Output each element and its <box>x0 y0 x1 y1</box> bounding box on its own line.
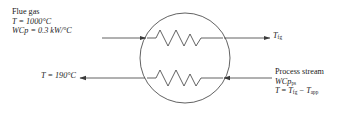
flue-gas-outlet-label: Tfg <box>273 31 282 41</box>
flue-gas-outlet-subscript: fg <box>278 34 283 40</box>
flue-gas-name: Flue gas <box>12 7 72 17</box>
cooled-gas-temperature-label: T = 190°C <box>41 71 76 81</box>
process-temp-term2-subscript: app <box>311 89 319 95</box>
process-stream-temperature-equation: T = Tfg − Tapp <box>275 86 324 96</box>
heat-exchanger-body <box>140 13 230 103</box>
flue-gas-wcp: WCp = 0.3 kW/°C <box>12 26 72 36</box>
process-temp-operator: − <box>297 86 306 95</box>
process-stream-wcp-symbol: WCp <box>275 77 291 86</box>
zigzag-hot-coil <box>147 30 223 46</box>
process-temp-equals: = <box>280 86 289 95</box>
cooled-gas-temperature: T = 190°C <box>41 71 76 80</box>
heat-exchanger-diagram: Flue gas T = 1000°C WCp = 0.3 kW/°C T = … <box>0 0 349 113</box>
flue-gas-temperature: T = 1000°C <box>12 17 72 27</box>
process-stream-wcp: WCpps <box>275 77 324 87</box>
flue-gas-inlet-label: Flue gas T = 1000°C WCp = 0.3 kW/°C <box>12 7 72 36</box>
process-stream-name: Process stream <box>275 67 324 77</box>
zigzag-cold-coil <box>147 70 223 86</box>
process-stream-wcp-subscript: ps <box>291 80 296 86</box>
process-stream-label: Process stream WCpps T = Tfg − Tapp <box>275 67 324 96</box>
